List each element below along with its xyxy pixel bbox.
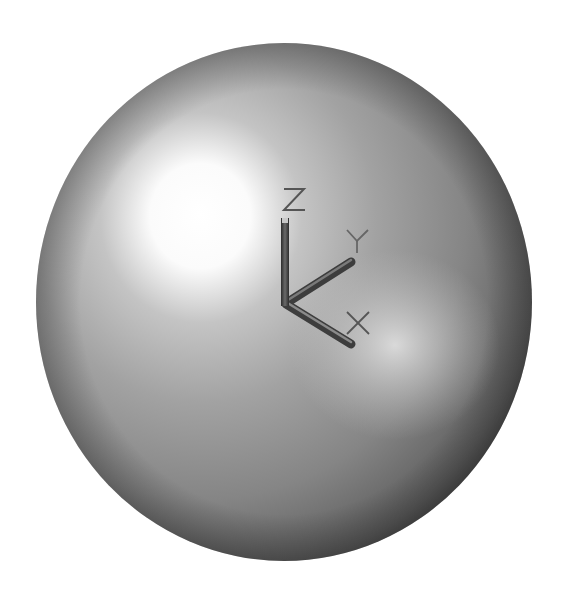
viewport-canvas[interactable]: Z Y X bbox=[0, 0, 564, 592]
z-axis-bar bbox=[281, 218, 289, 306]
3d-viewport[interactable]: Z Y X bbox=[0, 0, 564, 592]
